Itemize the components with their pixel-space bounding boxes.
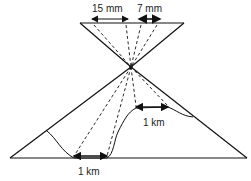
film-left-label: 15 mm [92,3,123,14]
perspective-diagram: 15 mm 7 mm 1 km 1 km [0,0,251,181]
object-rays [74,67,168,156]
ground-low-label: 1 km [78,166,100,177]
terrain-profile [47,107,193,158]
ground-high-label: 1 km [143,117,165,128]
film-triangle [80,23,184,67]
film-right-label: 7 mm [137,3,162,14]
ground-triangle [10,67,247,158]
image-rays [94,25,157,67]
